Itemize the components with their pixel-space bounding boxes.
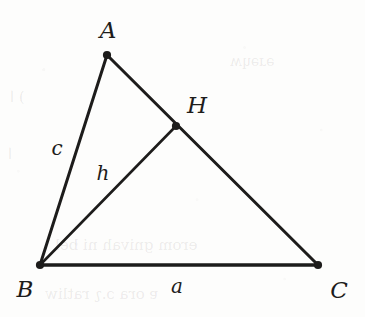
vertex-dot-A (103, 51, 111, 59)
side-label-h: h (97, 163, 110, 183)
side-label-c: c (51, 138, 62, 158)
segment-AB (40, 55, 107, 265)
side-label-a: a (171, 276, 183, 296)
vertex-dot-H (172, 122, 180, 130)
vertex-dots (36, 51, 322, 269)
geometry-figure: ) ا ا erom gnivah ni bel ɐ ora ɔ.ʅ ratli… (0, 0, 365, 317)
segment-AC (107, 55, 318, 265)
vertex-label-C: C (330, 279, 348, 302)
triangle-edges (40, 55, 318, 265)
vertex-dot-C (314, 261, 322, 269)
vertex-label-A: A (100, 19, 117, 42)
vertex-label-B: B (17, 278, 34, 301)
vertex-dot-B (36, 261, 44, 269)
vertex-label-H: H (187, 94, 207, 117)
